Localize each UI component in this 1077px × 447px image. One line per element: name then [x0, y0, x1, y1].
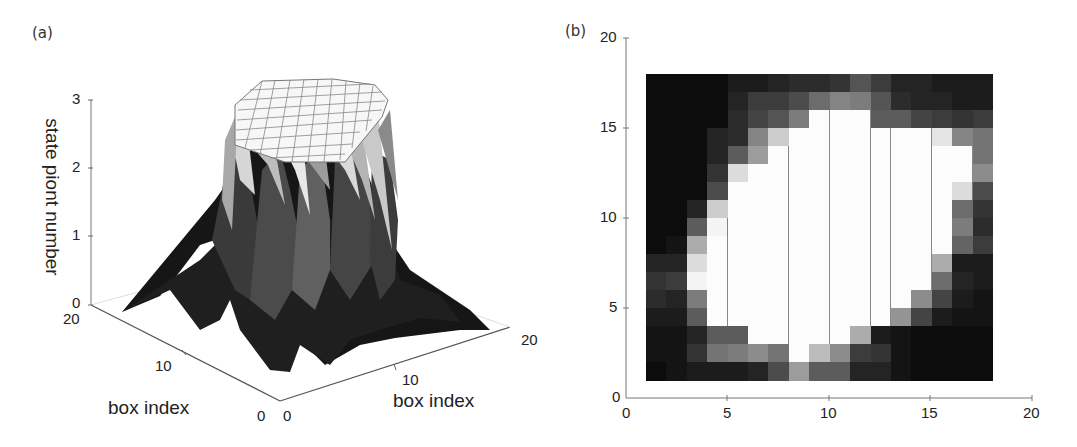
- heatmap-cell: [973, 362, 994, 381]
- heatmap-cell: [952, 254, 973, 273]
- heatmap-cell: [911, 218, 932, 237]
- heatmap-cell: [666, 92, 687, 111]
- heatmap-grid: [646, 74, 993, 380]
- heatmap-cell: [768, 92, 789, 111]
- heatmap-cell: [789, 182, 810, 201]
- heatmap-cell: [687, 110, 708, 129]
- heatmap-cell: [646, 92, 667, 111]
- heatmap-cell: [850, 326, 871, 345]
- heatmap-cell: [728, 362, 749, 381]
- heatmap-cell: [850, 128, 871, 147]
- heatmap-cell: [728, 308, 749, 327]
- heatmap-cell: [789, 200, 810, 219]
- heatmap-cell: [748, 182, 769, 201]
- heatmap-cell: [871, 254, 892, 273]
- heatmap-cell: [809, 290, 830, 309]
- heatmap-cell: [952, 164, 973, 183]
- b-y-tick-15: 15: [600, 118, 617, 135]
- heatmap-cell: [952, 290, 973, 309]
- heatmap-cell: [666, 344, 687, 363]
- heatmap-cell: [809, 200, 830, 219]
- heatmap-cell: [768, 164, 789, 183]
- heatmap-cell: [911, 110, 932, 129]
- heatmap-cell: [871, 236, 892, 255]
- heatmap-cell: [666, 146, 687, 165]
- heatmap-cell: [809, 308, 830, 327]
- heatmap-cell: [728, 326, 749, 345]
- heatmap-cell: [871, 110, 892, 129]
- heatmap-cell: [687, 128, 708, 147]
- heatmap-cell: [850, 164, 871, 183]
- heatmap-cell: [809, 236, 830, 255]
- heatmap-cell: [666, 218, 687, 237]
- heatmap-cell: [707, 182, 728, 201]
- heatmap-cell: [768, 200, 789, 219]
- heatmap-cell: [911, 362, 932, 381]
- heatmap-cell: [830, 326, 851, 345]
- heatmap-cell: [646, 326, 667, 345]
- heatmap-cell: [830, 74, 851, 93]
- heatmap-cell: [911, 182, 932, 201]
- heatmap-cell: [973, 128, 994, 147]
- heatmap-cell: [973, 200, 994, 219]
- heatmap-cell: [666, 362, 687, 381]
- heatmap-cell: [891, 146, 912, 165]
- heatmap-cell: [911, 236, 932, 255]
- heatmap-cell: [687, 362, 708, 381]
- heatmap-cell: [911, 344, 932, 363]
- heatmap-cell: [768, 218, 789, 237]
- heatmap-cell: [871, 128, 892, 147]
- heatmap-cell: [789, 254, 810, 273]
- heatmap-cell: [666, 128, 687, 147]
- heatmap-cell: [646, 344, 667, 363]
- heatmap-cell: [768, 236, 789, 255]
- heatmap-cell: [646, 362, 667, 381]
- heatmap-cell: [768, 308, 789, 327]
- heatmap-cell: [911, 164, 932, 183]
- heatmap-cell: [932, 272, 953, 291]
- heatmap-cell: [707, 164, 728, 183]
- heatmap-cell: [871, 218, 892, 237]
- heatmap-cell: [748, 362, 769, 381]
- heatmap-cell: [748, 290, 769, 309]
- heatmap-cell: [973, 92, 994, 111]
- heatmap-cell: [809, 218, 830, 237]
- heatmap-cell: [891, 200, 912, 219]
- heatmap-cell: [707, 326, 728, 345]
- heatmap-cell: [830, 218, 851, 237]
- heatmap-cell: [666, 290, 687, 309]
- heatmap-cell: [850, 110, 871, 129]
- heatmap-cell: [687, 164, 708, 183]
- b-x-tick-20: 20: [1023, 404, 1040, 421]
- heatmap-cell: [789, 164, 810, 183]
- heatmap-cell: [728, 200, 749, 219]
- heatmap-cell: [830, 146, 851, 165]
- heatmap-cell: [768, 272, 789, 291]
- heatmap-cell: [911, 146, 932, 165]
- heatmap-cell: [707, 290, 728, 309]
- b-x-tick-15: 15: [921, 404, 938, 421]
- heatmap-cell: [891, 236, 912, 255]
- heatmap-cell: [728, 92, 749, 111]
- heatmap-cell: [952, 110, 973, 129]
- heatmap-cell: [830, 272, 851, 291]
- heatmap-cell: [687, 308, 708, 327]
- heatmap-cell: [932, 362, 953, 381]
- heatmap-cell: [789, 218, 810, 237]
- heatmap-cell: [748, 218, 769, 237]
- heatmap-cell: [707, 200, 728, 219]
- heatmap-cell: [891, 290, 912, 309]
- heatmap-cell: [707, 272, 728, 291]
- heatmap-cell: [789, 272, 810, 291]
- heatmap-cell: [646, 218, 667, 237]
- b-x-tick-5: 5: [723, 404, 731, 421]
- heatmap-cell: [973, 164, 994, 183]
- heatmap-cell: [932, 290, 953, 309]
- heatmap-cell: [973, 344, 994, 363]
- heatmap-cell: [748, 236, 769, 255]
- heatmap-cell: [707, 110, 728, 129]
- heatmap-cell: [891, 92, 912, 111]
- heatmap-cell: [850, 362, 871, 381]
- heatmap-cell: [809, 164, 830, 183]
- heatmap-cell: [850, 146, 871, 165]
